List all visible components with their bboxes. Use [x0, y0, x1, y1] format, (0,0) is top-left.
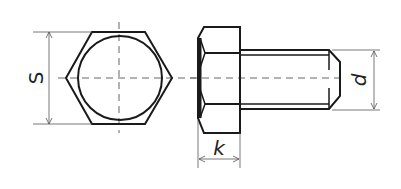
label-k: k: [213, 136, 226, 160]
shank-outline: [240, 50, 340, 109]
drawing-svg: S d k: [0, 0, 401, 189]
label-s: S: [24, 72, 48, 85]
label-d: d: [347, 73, 371, 86]
end-view: [58, 22, 196, 133]
bolt-head: [198, 27, 240, 133]
bolt-drawing: S d k: [0, 0, 401, 189]
dimension-k: k: [198, 120, 240, 168]
side-view: [190, 27, 346, 133]
